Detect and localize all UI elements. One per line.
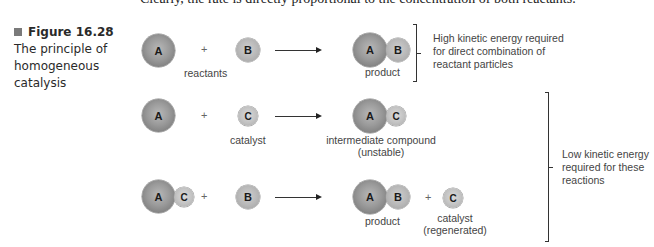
note-line: High kinetic energy required bbox=[433, 32, 564, 45]
bracket-high-energy bbox=[413, 24, 417, 82]
intermediate-label: intermediate compound (unstable) bbox=[326, 134, 436, 158]
intermediate-label-line2: (unstable) bbox=[326, 146, 436, 158]
atom-c: C bbox=[174, 187, 194, 207]
intermediate-label-line1: intermediate compound bbox=[326, 134, 436, 146]
plus-sign: + bbox=[201, 109, 207, 121]
plus-sign: + bbox=[201, 190, 207, 202]
product-label: product bbox=[365, 66, 400, 78]
caption-line-2: homogeneous catalysis bbox=[14, 58, 134, 92]
figure-caption: Figure 16.28 The principle of homogeneou… bbox=[14, 24, 134, 92]
figure-number: Figure 16.28 bbox=[28, 25, 114, 39]
note-line: for direct combination of bbox=[433, 45, 564, 58]
product-atom-a: A bbox=[353, 33, 387, 67]
regenerated-label-line1: catalyst bbox=[420, 212, 490, 224]
product-atom-a: A bbox=[353, 99, 387, 133]
atom-c: C bbox=[238, 106, 258, 126]
low-energy-note: Low kinetic energy required for these re… bbox=[562, 148, 654, 187]
caption-line-1: The principle of bbox=[14, 41, 134, 58]
atom-a: A bbox=[142, 99, 175, 132]
atom-b: B bbox=[236, 185, 260, 209]
note-line: required for these bbox=[562, 161, 654, 174]
figure-marker-icon bbox=[14, 28, 22, 36]
catalyst-label: catalyst bbox=[230, 134, 266, 146]
regenerated-label-line2: (regenerated) bbox=[420, 224, 490, 236]
plus-sign: + bbox=[201, 43, 207, 55]
product-atom-b: B bbox=[386, 185, 410, 209]
regenerated-atom-c: C bbox=[443, 188, 463, 208]
plus-sign: + bbox=[425, 191, 431, 203]
product-label: product bbox=[365, 215, 400, 227]
reaction-arrow-icon bbox=[275, 116, 320, 117]
reaction-arrow-icon bbox=[275, 50, 320, 51]
note-line: reactant particles bbox=[433, 58, 564, 71]
atom-a: A bbox=[142, 34, 175, 67]
body-text-fragment: Clearly, the rate is directly proportion… bbox=[140, 0, 590, 7]
atom-b: B bbox=[236, 38, 260, 62]
product-atom-c: C bbox=[386, 106, 406, 126]
product-atom-b: B bbox=[386, 38, 410, 62]
note-line: Low kinetic energy bbox=[562, 148, 654, 161]
reaction-arrow-icon bbox=[275, 197, 320, 198]
regenerated-catalyst-label: catalyst (regenerated) bbox=[420, 212, 490, 236]
product-atom-a: A bbox=[353, 180, 387, 214]
reactants-label: reactants bbox=[184, 67, 227, 79]
atom-a: A bbox=[142, 180, 175, 213]
bracket-low-energy bbox=[545, 92, 549, 242]
note-line: reactions bbox=[562, 174, 654, 187]
high-energy-note: High kinetic energy required for direct … bbox=[433, 32, 564, 71]
